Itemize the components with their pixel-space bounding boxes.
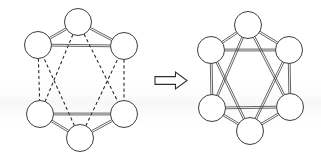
result-node-circle: [235, 12, 262, 39]
source-solid-edge: [54, 113, 111, 115]
source-solid-edge: [90, 27, 113, 40]
source-node: [111, 101, 138, 128]
edge-line-b: [91, 120, 111, 131]
edge-line-a: [52, 120, 69, 130]
edge-line-b: [223, 33, 238, 43]
edge-line-a: [49, 28, 66, 38]
source-solid-edge: [91, 120, 112, 133]
result-solid-edge: [261, 113, 279, 125]
result-solid-edge: [288, 63, 290, 93]
source-node-circle: [27, 101, 54, 128]
source-solid-edge: [49, 28, 66, 39]
result-graph-nodes: [198, 12, 304, 145]
result-solid-edge: [210, 63, 212, 94]
edge-line-a: [224, 114, 239, 123]
edge-line-b: [261, 113, 278, 123]
source-graph-nodes: [25, 9, 138, 152]
edge-line-a: [222, 32, 237, 42]
result-node-circle: [198, 37, 225, 64]
source-node: [25, 32, 52, 59]
edge-line-b: [50, 30, 67, 40]
result-node-circle: [237, 118, 264, 145]
source-node-circle: [67, 125, 94, 152]
edge-line-b: [212, 63, 213, 94]
edge-line-b: [290, 63, 291, 93]
result-node-circle: [276, 37, 303, 64]
figure-root: Graph edge-completion transformation: [0, 0, 321, 161]
result-node-circle: [277, 94, 304, 121]
source-node-circle: [111, 33, 138, 60]
source-node: [67, 125, 94, 152]
transformation-arrow-icon: [155, 72, 187, 89]
edge-line-a: [210, 64, 211, 95]
edge-line-a: [259, 33, 277, 44]
edge-line-b: [260, 31, 278, 42]
result-solid-edge: [225, 106, 276, 108]
result-solid-edge: [259, 31, 278, 43]
result-node: [199, 95, 226, 122]
result-node-circle: [199, 95, 226, 122]
edge-line-b: [51, 122, 68, 132]
source-node-circle: [25, 32, 52, 59]
edge-line-a: [51, 46, 110, 47]
transformation-arrow: [155, 72, 187, 89]
edge-line-a: [262, 115, 279, 125]
source-node-circle: [111, 101, 138, 128]
result-node: [235, 12, 262, 39]
result-solid-edge: [223, 114, 239, 125]
source-node: [65, 9, 92, 36]
edge-line-a: [226, 108, 277, 109]
result-node: [276, 37, 303, 64]
result-node: [237, 118, 264, 145]
edge-line-b: [52, 44, 111, 45]
edge-line-a: [288, 64, 289, 94]
result-node: [198, 37, 225, 64]
result-solid-edge: [225, 49, 276, 51]
result-solid-edge: [222, 32, 238, 43]
diagram-canvas: [0, 0, 321, 161]
source-solid-edge: [51, 120, 69, 132]
source-node: [27, 101, 54, 128]
source-dashed-edge: [38, 58, 39, 100]
source-node-circle: [65, 9, 92, 36]
edge-line-b: [90, 27, 112, 39]
edge-line-b: [225, 106, 276, 107]
source-solid-edge: [51, 44, 110, 46]
source-node: [111, 33, 138, 60]
edge-line-a: [92, 121, 112, 132]
edge-line-b: [223, 116, 238, 125]
edge-line-a: [90, 29, 112, 41]
result-node: [277, 94, 304, 121]
